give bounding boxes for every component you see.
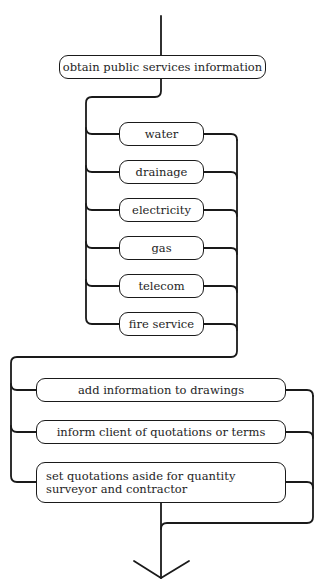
service-box-drainage: drainage (119, 160, 204, 184)
service-box-fire-service: fire service (119, 312, 204, 336)
service-box-gas: gas (119, 236, 204, 260)
action-label: add information to drawings (78, 384, 244, 397)
start-box: obtain public services information (59, 55, 266, 79)
service-label: telecom (138, 280, 184, 293)
action-box-inform-client: inform client of quotations or terms (36, 420, 286, 444)
action-label: inform client of quotations or terms (57, 426, 266, 439)
action-box-set-quotations-aside: set quotations aside for quantity survey… (36, 462, 286, 503)
service-label: water (145, 128, 179, 141)
service-label: drainage (136, 166, 188, 179)
service-box-electricity: electricity (119, 198, 204, 222)
service-label: electricity (132, 204, 191, 217)
service-box-telecom: telecom (119, 274, 204, 298)
down-arrow-icon (134, 561, 189, 579)
action-label: set quotations aside for quantity survey… (46, 470, 255, 496)
service-box-water: water (119, 122, 204, 146)
service-label: fire service (129, 318, 194, 331)
service-label: gas (151, 242, 171, 255)
start-box-label: obtain public services information (63, 61, 262, 74)
action-box-add-information: add information to drawings (36, 378, 286, 402)
